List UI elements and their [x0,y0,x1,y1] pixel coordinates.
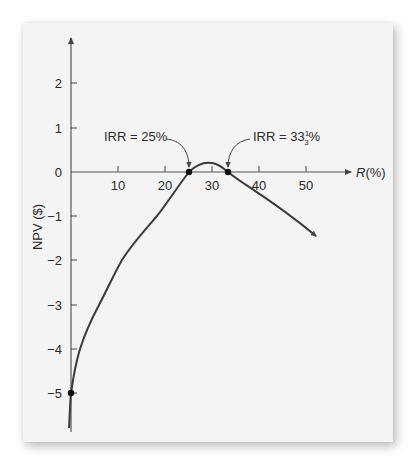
x-tick-label: 20 [158,178,172,193]
irr-25-leader [166,139,189,167]
point-npv-minus-5 [68,390,74,396]
x-axis-label: R(%) [356,165,386,180]
irr-33-leader [228,139,250,167]
y-tick-label: −2 [47,253,62,268]
y-tick-labels: 2 1 0 −1 −2 −3 −4 −5 [47,76,62,401]
y-tick-label: 0 [55,165,62,180]
irr-33-label: IRR = 3313% [253,129,321,147]
y-tick-label: −4 [47,342,62,357]
npv-curve [69,163,316,428]
point-irr-33 [225,169,231,175]
y-tick-label: −1 [47,209,62,224]
y-axis-label: NPV ($) [30,204,45,250]
point-irr-25 [186,169,192,175]
x-ticks [118,166,306,172]
x-tick-label: 10 [111,178,125,193]
y-tick-label: 2 [55,76,62,91]
x-tick-label: 30 [205,178,219,193]
y-tick-label: −5 [47,386,62,401]
y-tick-label: 1 [55,121,62,136]
y-ticks [68,83,77,393]
x-tick-label: 50 [299,178,313,193]
irr-25-label: IRR = 25% [104,129,168,144]
npv-profile-chart: 2 1 0 −1 −2 −3 −4 −5 10 20 30 40 50 R(%)… [0,0,419,466]
y-tick-label: −3 [47,298,62,313]
x-tick-labels: 10 20 30 40 50 [111,178,313,193]
